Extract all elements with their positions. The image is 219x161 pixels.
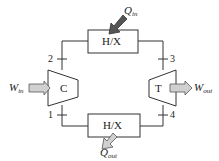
heat-exchanger-bottom-label: H/X [103, 120, 122, 131]
state-point-3: 3 [170, 54, 175, 64]
w-in-label: Win [9, 82, 24, 95]
w-out-label: Wout [194, 82, 212, 95]
turbine-label: T [155, 83, 162, 94]
q-in-label: Qin [124, 5, 137, 18]
state-point-4: 4 [170, 110, 175, 120]
compressor-label: C [60, 83, 67, 94]
q-out-label: Qout [100, 147, 117, 160]
diagram-lines [0, 0, 219, 161]
brayton-cycle-diagram: H/X H/X C T 2 3 1 4 Qin Qout Win Wout [0, 0, 219, 161]
state-point-1: 1 [48, 110, 53, 120]
state-point-2: 2 [48, 54, 53, 64]
w-in-arrow-icon [29, 81, 50, 95]
heat-exchanger-top-label: H/X [102, 36, 121, 47]
